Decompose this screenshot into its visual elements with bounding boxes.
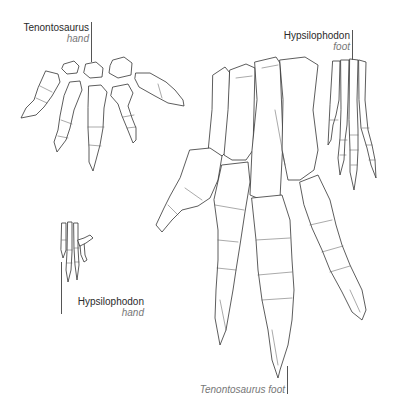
label-body-part: hand [64, 307, 144, 318]
tenontosaurus-hand-leader [91, 22, 92, 62]
label-hypsilophodon-hand: Hypsilophodon hand [64, 296, 144, 318]
tenontosaurus-foot-leader [287, 366, 288, 394]
hypsilophodon-hand-illustration [61, 222, 93, 282]
label-species-name: Tenontosaurus [12, 22, 89, 33]
label-species-name: Hypsilophodon [64, 296, 144, 307]
label-tenontosaurus-foot: Tenontosaurus foot [196, 384, 285, 395]
label-caption: Tenontosaurus foot [196, 384, 285, 395]
label-hypsilophodon-foot: Hypsilophodon foot [270, 30, 350, 52]
illustration-canvas [0, 0, 398, 409]
label-body-part: foot [270, 41, 350, 52]
label-body-part: hand [12, 33, 89, 44]
label-species-name: Hypsilophodon [270, 30, 350, 41]
hypsilophodon-hand-leader [61, 262, 62, 314]
hypsilophodon-foot-illustration [328, 59, 376, 190]
tenontosaurus-hand-illustration [21, 57, 184, 171]
label-tenontosaurus-hand: Tenontosaurus hand [12, 22, 89, 44]
hypsilophodon-foot-leader [352, 30, 353, 60]
